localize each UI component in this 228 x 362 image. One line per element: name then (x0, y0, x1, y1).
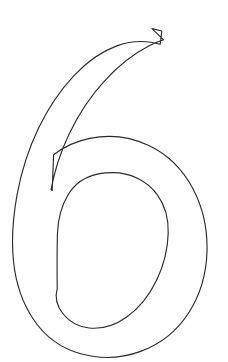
drawing-canvas: Numeral Six Outline Coloring-page style … (0, 0, 228, 362)
numeral-six-drawing (0, 0, 228, 362)
